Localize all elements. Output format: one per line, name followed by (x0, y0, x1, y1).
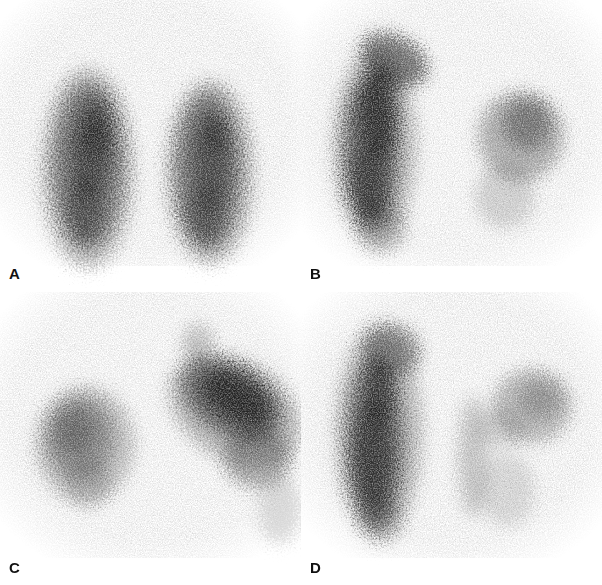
panel-label-d: D (310, 560, 321, 575)
panel-label-c: C (9, 560, 20, 575)
panel-a: A (0, 0, 301, 292)
highlight-grain (0, 0, 301, 266)
panel-c: C (0, 292, 301, 585)
scan-image-a (0, 0, 301, 292)
panel-label-b: B (310, 266, 321, 281)
scintigraphy-figure: A B (0, 0, 602, 585)
panel-d: D (301, 292, 602, 585)
highlight-grain (301, 0, 602, 266)
scan-image-d (301, 292, 602, 585)
highlight-grain (0, 292, 301, 558)
highlight-grain (301, 292, 602, 558)
scan-image-c (0, 292, 301, 585)
scan-image-b (301, 0, 602, 292)
panel-b: B (301, 0, 602, 292)
panel-label-a: A (9, 266, 20, 281)
